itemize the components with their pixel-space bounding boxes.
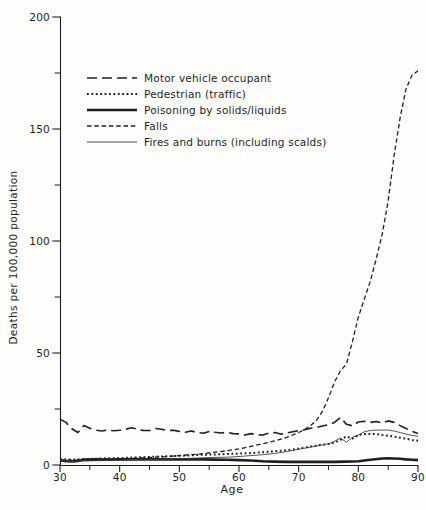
legend-item-poisoning-by-solids-liquids: Poisoning by solids/liquids bbox=[87, 102, 326, 118]
y-axis-title: Deaths per 100,000 population bbox=[7, 153, 22, 363]
legend-swatch-long-dash bbox=[87, 72, 137, 84]
x-tick-label-80: 80 bbox=[351, 471, 365, 483]
falls-and-injury-death-rates-by-age-chart: 05010015020030405060708090 Deaths per 10… bbox=[0, 0, 426, 510]
legend-swatch-dotted bbox=[87, 88, 137, 100]
x-tick-label-70: 70 bbox=[292, 471, 306, 483]
legend: Motor vehicle occupantPedestrian (traffi… bbox=[87, 70, 326, 150]
x-tick-label-40: 40 bbox=[113, 471, 127, 483]
legend-label: Pedestrian (traffic) bbox=[144, 88, 246, 100]
x-tick-label-50: 50 bbox=[172, 471, 186, 483]
y-tick-label-100: 100 bbox=[29, 235, 50, 247]
legend-item-falls: Falls bbox=[87, 118, 326, 134]
x-axis-title: Age bbox=[132, 483, 332, 496]
legend-label: Falls bbox=[144, 120, 168, 132]
y-tick-label-150: 150 bbox=[29, 123, 50, 135]
x-tick-label-30: 30 bbox=[53, 471, 67, 483]
series-line-motor-vehicle-occupant bbox=[60, 418, 418, 436]
legend-label: Motor vehicle occupant bbox=[144, 72, 271, 84]
legend-label: Fires and burns (including scalds) bbox=[144, 136, 326, 148]
y-tick-label-50: 50 bbox=[36, 347, 50, 359]
legend-item-pedestrian-traffic: Pedestrian (traffic) bbox=[87, 86, 326, 102]
legend-swatch-solid-thick bbox=[87, 104, 137, 116]
series-line-pedestrian-traffic bbox=[60, 434, 418, 460]
legend-item-fires-and-burns-including-scalds: Fires and burns (including scalds) bbox=[87, 134, 326, 150]
legend-swatch-solid-thin bbox=[87, 136, 137, 148]
legend-item-motor-vehicle-occupant: Motor vehicle occupant bbox=[87, 70, 326, 86]
legend-label: Poisoning by solids/liquids bbox=[144, 104, 287, 116]
x-tick-label-60: 60 bbox=[232, 471, 246, 483]
y-tick-label-0: 0 bbox=[43, 459, 50, 471]
legend-swatch-short-dash bbox=[87, 120, 137, 132]
x-tick-label-90: 90 bbox=[411, 471, 425, 483]
y-tick-label-200: 200 bbox=[29, 11, 50, 23]
